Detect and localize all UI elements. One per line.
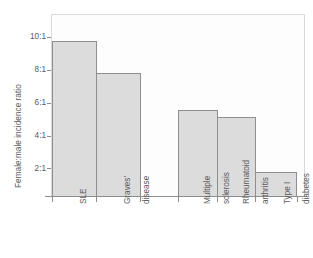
x-category-label-rheumatoid-arthritis: Rheumatoid arthritis bbox=[233, 134, 253, 204]
bar-chart-figure: Female:male incidence ratio 10:1 8:1 6:1… bbox=[0, 0, 313, 258]
x-category-label-t1d-line1: Type I bbox=[283, 134, 292, 204]
x-category-label-type-i-diabetes: Type I diabetes bbox=[274, 134, 294, 204]
x-category-label-ms-line2: sclerosis bbox=[222, 134, 231, 204]
x-category-label-t1d-line2: diabetes bbox=[302, 134, 311, 204]
x-category-label-sle-line1: SLE bbox=[79, 134, 88, 204]
x-category-label-graves-line2: disease bbox=[142, 134, 151, 204]
x-category-label-ra-line2: arthritis bbox=[261, 134, 270, 204]
x-category-label-sle: SLE bbox=[70, 134, 90, 204]
x-category-label-ms-line1: Multiple bbox=[203, 134, 212, 204]
x-category-label-graves-disease: Graves' disease bbox=[114, 134, 134, 204]
x-tick-mark-3 bbox=[178, 197, 179, 202]
bars-layer bbox=[0, 0, 313, 258]
x-category-label-multiple-sclerosis: Multiple sclerosis bbox=[194, 134, 214, 204]
x-category-label-graves-line1: Graves' bbox=[123, 134, 132, 204]
x-category-label-ra-line1: Rheumatoid bbox=[242, 134, 251, 204]
x-tick-mark-0 bbox=[52, 197, 53, 202]
